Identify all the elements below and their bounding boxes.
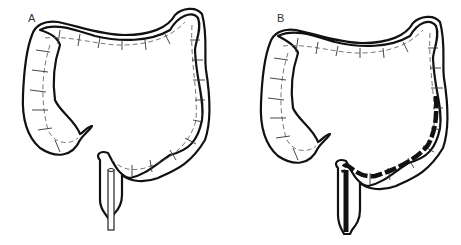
panel-b: B (230, 0, 461, 245)
colon-diagram-a (0, 0, 230, 245)
panel-a: A (0, 0, 230, 245)
rigid-scope (108, 170, 114, 230)
colon-diagram-b (230, 0, 461, 245)
